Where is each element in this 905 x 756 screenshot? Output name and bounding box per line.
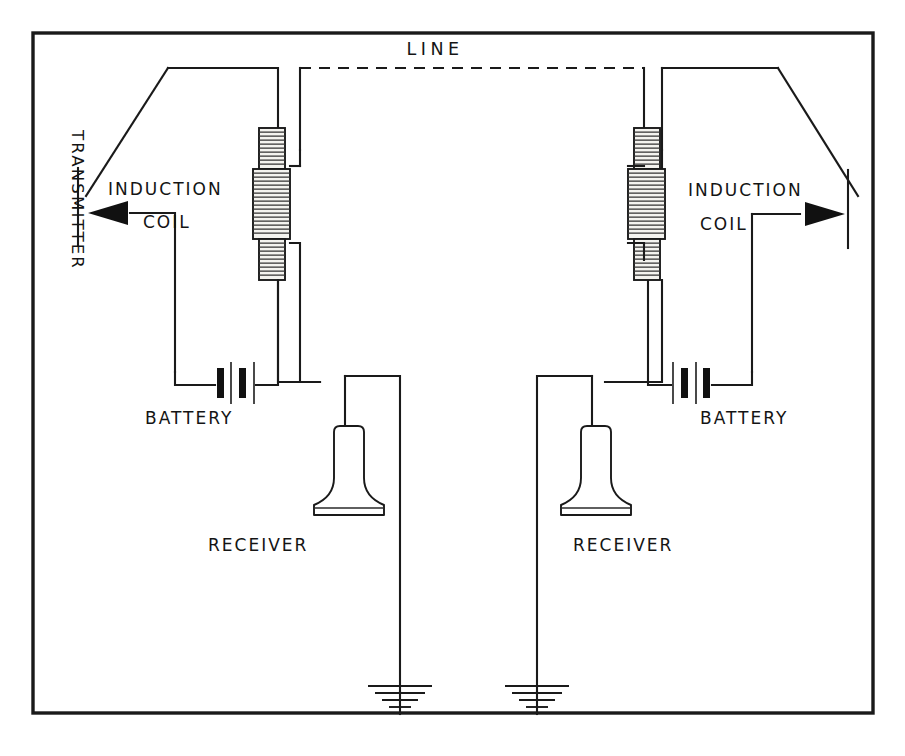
receiver-left-ground-wire — [345, 376, 400, 692]
battery-right-plate-2 — [681, 368, 688, 398]
receiver-right-earpiece — [561, 426, 631, 515]
diagram-border — [33, 33, 873, 713]
receiver-left-earpiece — [314, 426, 384, 515]
coil-right-primary-bottom-lead — [605, 280, 662, 382]
label-battery-right: BATTERY — [700, 408, 788, 428]
label-battery-left: BATTERY — [145, 408, 233, 428]
label-receiver-right: RECEIVER — [573, 535, 673, 555]
induction-coil-left — [253, 128, 290, 280]
label-induction-coil-right-line1: INDUCTION — [688, 180, 803, 200]
transmitter-left-lead-wire — [130, 213, 175, 372]
transmitter-right-diagonal-wire — [778, 68, 858, 196]
label-receiver-left: RECEIVER — [208, 535, 308, 555]
transmitter-left-diagonal-wire — [86, 68, 168, 196]
battery-right-plate-4 — [703, 368, 710, 398]
battery-right-lead-left — [648, 268, 671, 385]
label-induction-coil-left-line1: INDUCTION — [108, 179, 223, 199]
label-line: LINE — [406, 39, 463, 59]
receiver-right — [561, 426, 631, 515]
battery-right-lead-right — [712, 372, 752, 385]
label-induction-coil-left-line2: COIL — [143, 212, 191, 232]
telephone-circuit-diagram: LINE TRANSMITTER INDUCTION COIL INDUCTIO… — [0, 0, 905, 756]
battery-left-plate-1 — [217, 368, 224, 398]
induction-coil-right — [628, 128, 665, 280]
battery-left-lead-right — [256, 268, 278, 385]
transmitter-right-arrowhead — [805, 202, 845, 226]
coil-left-sec-bottom-tap — [290, 243, 320, 382]
battery-left-lead-left — [175, 372, 215, 385]
circuit-schematic-canvas: LINE TRANSMITTER INDUCTION COIL INDUCTIO… — [0, 0, 905, 756]
transmitter-left-arrowhead — [88, 201, 128, 225]
battery-left-plate-3 — [239, 368, 246, 398]
label-transmitter: TRANSMITTER — [68, 129, 87, 270]
label-induction-coil-right-line2: COIL — [700, 214, 748, 234]
receiver-left — [314, 426, 384, 515]
receiver-right-ground-wire — [537, 376, 592, 692]
